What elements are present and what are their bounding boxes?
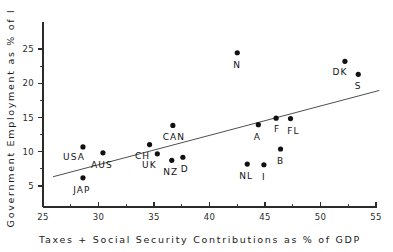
y-axis-title: Government Employment as % of l <box>5 9 16 228</box>
data-point-label: AUS <box>91 160 113 170</box>
plot-canvas: 25303540455055510152025USAJAPAUSCHUKCANN… <box>0 0 393 252</box>
x-tick-label: 35 <box>148 212 160 222</box>
y-tick-label: 20 <box>22 78 34 88</box>
data-point[interactable] <box>256 122 261 127</box>
data-point-label: NL <box>239 171 253 181</box>
x-tick-label: 40 <box>204 212 216 222</box>
data-point[interactable] <box>245 161 250 166</box>
data-point-label: S <box>355 81 362 91</box>
data-point-label: D <box>181 164 189 174</box>
data-point[interactable] <box>278 146 283 151</box>
data-point-label: JAP <box>72 185 90 195</box>
data-point[interactable] <box>261 162 266 167</box>
data-point[interactable] <box>147 142 152 147</box>
x-tick-label: 45 <box>259 212 271 222</box>
y-tick-label: 5 <box>28 181 34 191</box>
x-tick-label: 50 <box>315 212 327 222</box>
data-point-label: NZ <box>163 167 178 177</box>
y-tick-label: 25 <box>22 44 34 54</box>
data-point-label: F <box>274 124 280 134</box>
data-point[interactable] <box>180 155 185 160</box>
data-point[interactable] <box>170 123 175 128</box>
data-point-label: UK <box>142 160 157 170</box>
data-point[interactable] <box>169 158 174 163</box>
y-tick-label: 15 <box>22 113 34 123</box>
data-point-label: I <box>262 172 266 182</box>
x-tick-label: 25 <box>37 212 49 222</box>
data-point[interactable] <box>288 116 293 121</box>
data-point-label: DK <box>332 67 347 77</box>
data-point[interactable] <box>80 144 85 149</box>
data-point[interactable] <box>342 59 347 64</box>
data-point[interactable] <box>100 150 105 155</box>
x-tick-label: 30 <box>93 212 105 222</box>
data-point-label: USA <box>63 152 85 162</box>
data-point[interactable] <box>155 151 160 156</box>
data-point-label: N <box>233 60 241 70</box>
data-point[interactable] <box>235 50 240 55</box>
data-point[interactable] <box>80 175 85 180</box>
x-tick-label: 55 <box>370 212 382 222</box>
data-point-label: FL <box>287 126 299 136</box>
x-axis-title: Taxes + Social Security Contributions as… <box>38 234 361 245</box>
data-point-label: CAN <box>163 132 185 142</box>
data-point[interactable] <box>356 72 361 77</box>
data-point-label: B <box>277 156 284 166</box>
data-point[interactable] <box>274 116 279 121</box>
data-point-label: A <box>254 132 261 142</box>
y-tick-label: 10 <box>22 147 34 157</box>
scatter-plot-figure: 25303540455055510152025USAJAPAUSCHUKCANN… <box>0 0 393 252</box>
